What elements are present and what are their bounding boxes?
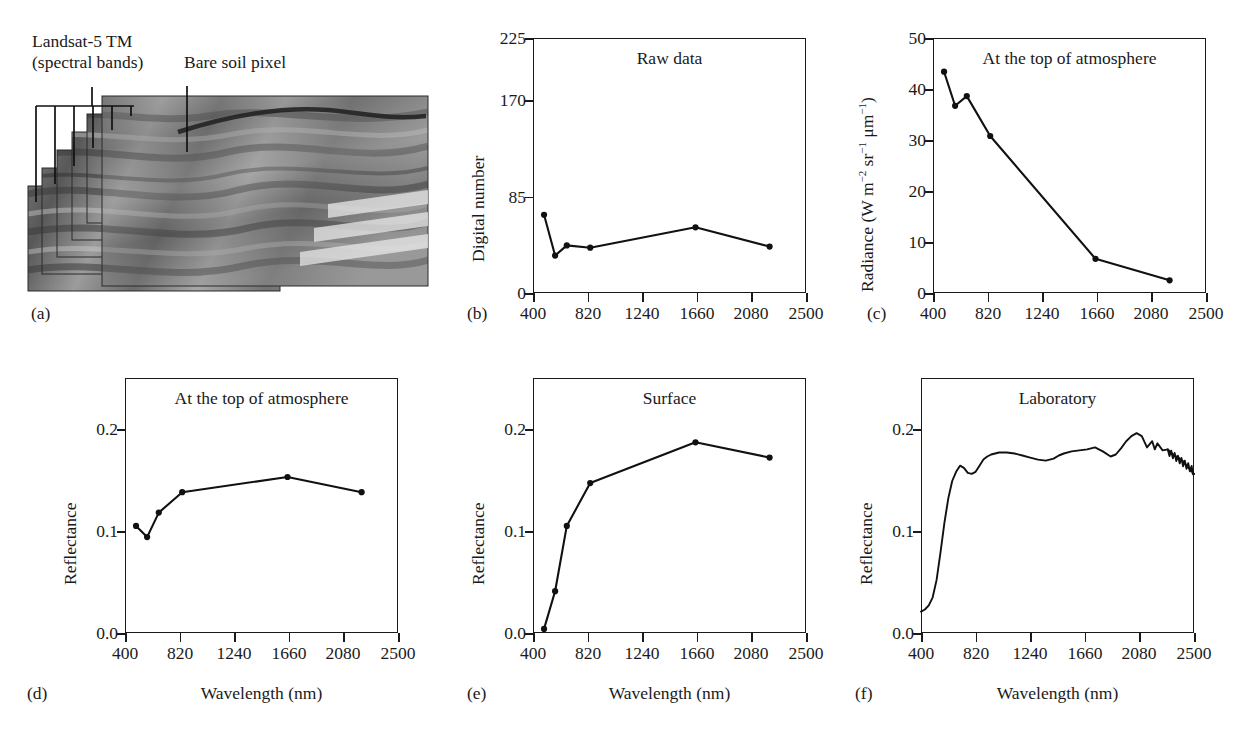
panel-b-x-tickmark-400 (533, 293, 535, 302)
panel-d-x-tick-1660: 1660 (259, 643, 319, 664)
panel-d-x-tickmark-820 (180, 633, 182, 642)
panel-a-landsat-image: Landsat-5 TM (spectral bands) Bare soil … (0, 0, 440, 340)
panel-d-x-tick-2080: 2080 (313, 643, 373, 664)
panel-c-y-tick-50: 50 (882, 28, 926, 49)
panel-e-y-tick-02: 0.2 (478, 419, 526, 440)
panel-d-x-axis-label: Wavelength (nm) (125, 683, 398, 704)
panel-c-y-tick-10: 10 (882, 232, 926, 253)
panel-b-y-tick-0: 0 (478, 283, 526, 304)
panel-a-bare-soil-pixel-label: Bare soil pixel (184, 52, 286, 73)
panel-f-spectrum-svg (921, 378, 1194, 633)
panel-c-x-tickmark-2500 (1206, 293, 1208, 302)
panel-f-x-tick-1240: 1240 (1000, 643, 1060, 664)
panel-b-x-tickmark-2500 (806, 293, 808, 302)
panel-d-y-tick-02: 0.2 (70, 419, 118, 440)
panel-a-annotation-title-line1: Landsat-5 TM (32, 30, 132, 52)
panel-e-x-tickmark-2500 (806, 633, 808, 642)
panel-c-x-tick-1660: 1660 (1067, 303, 1127, 324)
panel-e-x-tickmark-1660 (697, 633, 699, 642)
panel-c-label: (c) (867, 303, 886, 324)
panel-d-x-tickmark-2080 (343, 633, 345, 642)
panel-c-y-axis-label: Radiance (W m−2 sr−1 μm−1) (856, 97, 878, 292)
panel-b-x-tickmark-1240 (642, 293, 644, 302)
panel-b-label: (b) (467, 303, 487, 324)
band-layer-1 (102, 96, 428, 286)
panel-d-x-tickmark-400 (125, 633, 127, 642)
panel-c-x-tickmark-820 (988, 293, 990, 302)
panel-b-x-tick-2080: 2080 (721, 303, 781, 324)
panel-f-x-tickmark-1240 (1030, 633, 1032, 642)
panel-d-x-tick-400: 400 (95, 643, 155, 664)
panel-e-series-svg (533, 378, 806, 633)
panel-d-y-axis-label: Reflectance (60, 502, 81, 585)
panel-f-x-tick-820: 820 (946, 643, 1006, 664)
panel-d-series-svg (125, 378, 398, 633)
panel-a-annotation-title-line2: (spectral bands) (32, 52, 143, 73)
panel-f-y-tick-00: 0.0 (866, 623, 914, 644)
panel-b-x-tickmark-820 (588, 293, 590, 302)
panel-a-label: (a) (31, 303, 50, 324)
panel-b-x-tickmark-2080 (751, 293, 753, 302)
landsat-band-stack-image (28, 86, 428, 301)
panel-c-x-tick-2500: 2500 (1176, 303, 1236, 324)
panel-b-x-tick-820: 820 (558, 303, 618, 324)
panel-c-series-svg (933, 38, 1206, 293)
panel-c-radiance-chart: At the top of atmosphere Radiance (W m−2… (848, 0, 1248, 340)
panel-e-y-axis-label: Reflectance (468, 502, 489, 585)
panel-d-y-tick-00: 0.0 (70, 623, 118, 644)
panel-e-x-tick-1660: 1660 (667, 643, 727, 664)
panel-b-x-tick-2500: 2500 (776, 303, 836, 324)
panel-e-y-tick-01: 0.1 (478, 521, 526, 542)
panel-d-toa-reflectance-chart: At the top of atmosphere Reflectance 0.0… (0, 355, 440, 739)
panel-e-x-tick-2080: 2080 (721, 643, 781, 664)
panel-d-label: (d) (27, 683, 47, 704)
panel-d-x-tick-820: 820 (150, 643, 210, 664)
panel-f-label: (f) (855, 683, 872, 704)
panel-e-x-tick-2500: 2500 (776, 643, 836, 664)
panel-b-series-svg (533, 38, 806, 293)
panel-e-x-tick-400: 400 (503, 643, 563, 664)
panel-f-x-tickmark-2080 (1139, 633, 1141, 642)
panel-e-y-tick-00: 0.0 (478, 623, 526, 644)
panel-b-raw-data-chart: Raw data Digital number 0 85 170 225 400… (440, 0, 848, 340)
panel-e-label: (e) (467, 683, 486, 704)
panel-d-x-tickmark-2500 (398, 633, 400, 642)
panel-d-x-tickmark-1660 (289, 633, 291, 642)
panel-d-x-tick-1240: 1240 (204, 643, 264, 664)
panel-b-x-tick-1240: 1240 (612, 303, 672, 324)
panel-b-y-axis-label: Digital number (468, 156, 489, 262)
panel-b-y-tick-85: 85 (478, 187, 526, 208)
panel-c-y-tick-0: 0 (882, 283, 926, 304)
panel-c-x-tick-400: 400 (903, 303, 963, 324)
panel-e-x-tick-820: 820 (558, 643, 618, 664)
panel-b-y-tick-225: 225 (478, 28, 526, 49)
panel-b-x-tickmark-1660 (697, 293, 699, 302)
panel-e-x-tick-1240: 1240 (612, 643, 672, 664)
panel-c-y-tick-20: 20 (882, 181, 926, 202)
panel-e-x-tickmark-820 (588, 633, 590, 642)
panel-b-y-tick-170: 170 (478, 90, 526, 111)
panel-c-x-tick-1240: 1240 (1012, 303, 1072, 324)
panel-c-x-tickmark-1660 (1097, 293, 1099, 302)
panel-f-x-tickmark-2500 (1194, 633, 1196, 642)
panel-f-x-tickmark-400 (921, 633, 923, 642)
panel-e-surface-reflectance-chart: Surface Reflectance 0.0 0.1 0.2 400 820 … (440, 355, 848, 739)
panel-f-laboratory-spectrum-chart: Laboratory Reflectance 0.0 0.1 0.2 400 8… (848, 355, 1248, 739)
panel-d-x-tickmark-1240 (234, 633, 236, 642)
panel-f-y-tick-01: 0.1 (866, 521, 914, 542)
panel-f-x-tick-2080: 2080 (1109, 643, 1169, 664)
panel-e-x-axis-label: Wavelength (nm) (533, 683, 806, 704)
panel-c-x-tick-2080: 2080 (1121, 303, 1181, 324)
panel-d-y-tick-01: 0.1 (70, 521, 118, 542)
panel-c-x-tick-820: 820 (958, 303, 1018, 324)
panel-f-y-tick-02: 0.2 (866, 419, 914, 440)
panel-c-x-tickmark-2080 (1151, 293, 1153, 302)
panel-c-x-tickmark-1240 (1042, 293, 1044, 302)
panel-f-x-axis-label: Wavelength (nm) (921, 683, 1194, 704)
panel-d-x-tick-2500: 2500 (368, 643, 428, 664)
panel-b-x-tick-1660: 1660 (667, 303, 727, 324)
panel-b-x-tick-400: 400 (503, 303, 563, 324)
panel-c-y-tick-30: 30 (882, 130, 926, 151)
panel-f-x-tickmark-820 (976, 633, 978, 642)
panel-c-y-tick-40: 40 (882, 79, 926, 100)
